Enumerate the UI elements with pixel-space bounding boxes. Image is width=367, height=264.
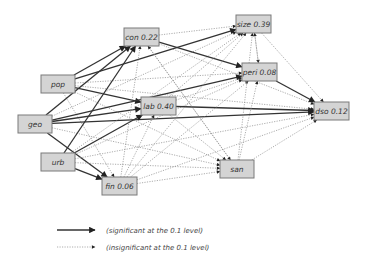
edge-con-to-peri-significant [159, 42, 242, 67]
node-peri: peri 0.08 [242, 63, 277, 81]
node-label: lab 0.40 [143, 102, 174, 111]
node-san: san [220, 160, 254, 178]
node-label: pop [50, 80, 65, 89]
legend: (significant at the 0.1 level) (insignif… [57, 227, 210, 252]
edge-san-to-peri-insignificant [239, 81, 257, 160]
node-pop: pop [41, 75, 75, 93]
node-fin: fin 0.06 [102, 177, 137, 195]
node-geo: geo [18, 115, 52, 133]
edge-con-to-dso-insignificant [159, 44, 314, 104]
node-con: con 0.22 [124, 28, 159, 46]
edges-layer [46, 26, 323, 184]
node-urb: urb [41, 153, 75, 171]
node-lab: lab 0.40 [141, 97, 176, 115]
edge-lab-to-san-insignificant [170, 115, 226, 160]
node-label: urb [52, 158, 65, 167]
edge-pop-to-lab-significant [75, 88, 141, 103]
node-label: size 0.39 [237, 20, 271, 29]
edge-urb-to-peri-insignificant [75, 80, 242, 155]
node-label: geo [28, 120, 42, 129]
edge-con-to-size-insignificant [159, 26, 236, 35]
node-label: con 0.22 [125, 33, 158, 42]
path-diagram: con 0.22popgeolab 0.40urbfin 0.06size 0.… [0, 0, 367, 264]
edge-lab-to-size-insignificant [169, 33, 243, 97]
node-label: dso 0.12 [315, 107, 348, 116]
node-size: size 0.39 [236, 15, 271, 33]
legend-insignificant-label: (insignificant at the 0.1 level) [106, 244, 210, 252]
edge-urb-to-san-insignificant [75, 163, 220, 169]
node-label: peri 0.08 [242, 68, 277, 77]
node-label: fin 0.06 [105, 182, 134, 191]
nodes-layer: con 0.22popgeolab 0.40urbfin 0.06size 0.… [18, 15, 349, 195]
edge-peri-to-dso-significant [276, 81, 315, 102]
edge-lab-to-dso-significant [176, 107, 314, 111]
edge-urb-to-con-significant [64, 46, 136, 153]
edge-san-to-dso-insignificant [252, 120, 317, 160]
edge-san-to-size-insignificant [238, 33, 253, 160]
edge-fin-to-san-insignificant [137, 172, 220, 184]
node-label: san [230, 165, 244, 174]
legend-significant-label: (significant at the 0.1 level) [106, 227, 203, 235]
edge-pop-to-dso-insignificant [75, 86, 314, 110]
node-dso: dso 0.12 [314, 102, 349, 120]
